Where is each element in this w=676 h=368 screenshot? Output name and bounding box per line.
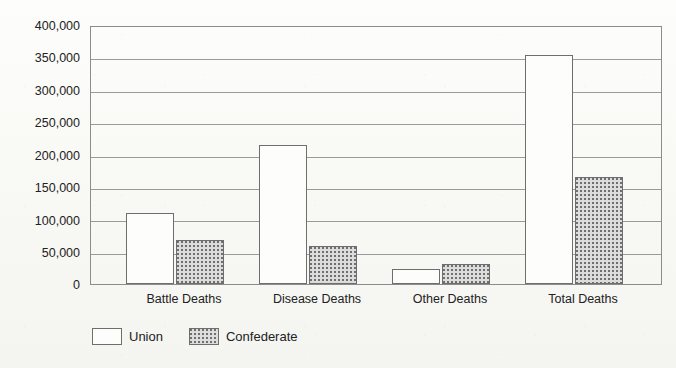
x-axis-category-label-other-deaths: Other Deaths xyxy=(385,292,515,306)
x-axis-category-label-battle-deaths: Battle Deaths xyxy=(119,292,249,306)
y-axis-tick-label: 200,000 xyxy=(0,150,80,162)
bar-confederate-other-deaths xyxy=(442,264,490,284)
legend-label-union: Union xyxy=(129,329,163,344)
y-axis-tick-label: 300,000 xyxy=(0,85,80,97)
bar-union-disease-deaths xyxy=(259,145,307,284)
legend-item-union: Union xyxy=(92,328,163,345)
x-axis-category-label-disease-deaths: Disease Deaths xyxy=(252,292,382,306)
bar-confederate-battle-deaths xyxy=(176,240,224,284)
chart-figure: 400,000 350,000 300,000 250,000 200,000 … xyxy=(0,0,676,368)
bar-confederate-disease-deaths xyxy=(309,246,357,284)
y-axis-tick-label: 350,000 xyxy=(0,52,80,64)
bar-union-other-deaths xyxy=(392,269,440,284)
y-axis-tick-label: 150,000 xyxy=(0,182,80,194)
bar-union-battle-deaths xyxy=(126,213,174,284)
legend-item-confederate: Confederate xyxy=(189,328,298,345)
x-axis-category-label-total-deaths: Total Deaths xyxy=(518,292,648,306)
y-axis-tick-label: 50,000 xyxy=(0,247,80,259)
gridline-350000 xyxy=(91,59,661,60)
legend-swatch-union-icon xyxy=(92,328,122,345)
y-axis-tick-label: 0 xyxy=(0,279,80,291)
plot-area xyxy=(90,26,662,285)
bar-confederate-total-deaths xyxy=(575,177,623,284)
y-axis-tick-label: 400,000 xyxy=(0,20,80,32)
legend-label-confederate: Confederate xyxy=(226,329,298,344)
gridline-250000 xyxy=(91,124,661,125)
gridline-200000 xyxy=(91,157,661,158)
bar-union-total-deaths xyxy=(525,55,573,284)
chart-legend: Union Confederate xyxy=(92,328,298,345)
y-axis-tick-label: 250,000 xyxy=(0,117,80,129)
gridline-300000 xyxy=(91,92,661,93)
y-axis-tick-label: 100,000 xyxy=(0,215,80,227)
legend-swatch-confederate-icon xyxy=(189,328,219,345)
